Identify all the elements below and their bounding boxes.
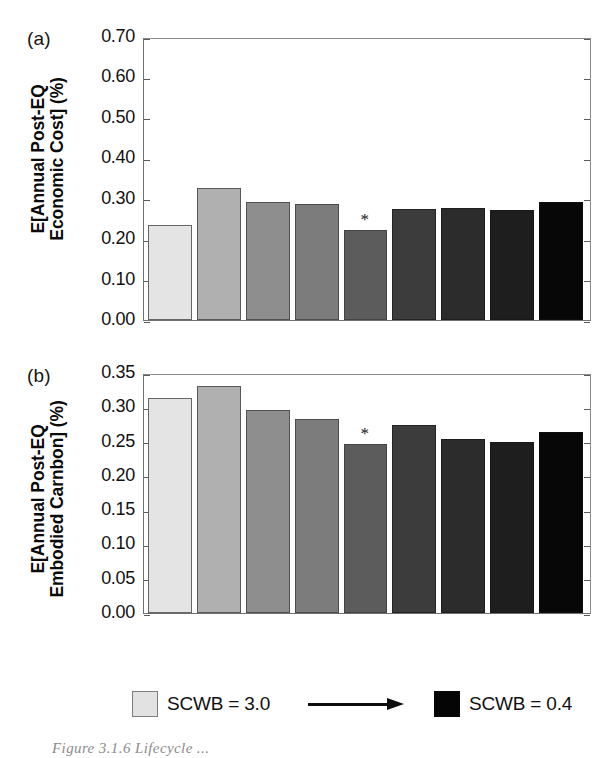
y-tick-label: 0.05 [101, 568, 135, 589]
bar [539, 432, 583, 613]
y-tick-label: 0.25 [101, 431, 135, 452]
panel-b-y-axis-title: E[Annual Post-EQ Embodied Carnbon] (%) [29, 384, 67, 614]
panel-b-y-axis-title-line2: Embodied Carnbon] (%) [48, 384, 67, 614]
bar [197, 386, 241, 613]
bar [392, 425, 436, 613]
y-tick-label: 0.15 [101, 499, 135, 520]
y-tick-label: 0.20 [101, 465, 135, 486]
bar [295, 419, 339, 613]
panel-b: (b) E[Annual Post-EQ Embodied Carnbon] (… [0, 0, 601, 640]
bar [490, 442, 534, 613]
y-tick-label: 0.00 [101, 602, 135, 623]
panel-b-plot-area: * [143, 374, 591, 614]
panel-b-y-axis-title-line1: E[Annual Post-EQ [29, 384, 48, 614]
bar [246, 410, 290, 613]
legend-label-right: SCWB = 0.4 [469, 693, 572, 715]
bar [344, 444, 388, 613]
rightwards-arrow-icon [308, 697, 404, 711]
legend-label-left: SCWB = 3.0 [167, 693, 270, 715]
bar [148, 398, 192, 613]
y-tick-label: 0.35 [101, 362, 135, 383]
significance-asterisk: * [361, 425, 370, 442]
tick-mark [144, 615, 150, 616]
figure-caption: Figure 3.1.6 Lifecycle ... [52, 740, 572, 758]
y-tick-label: 0.30 [101, 396, 135, 417]
tick-mark [584, 615, 590, 616]
panel-b-bars: * [144, 375, 590, 613]
legend-swatch-light [132, 691, 158, 717]
legend: SCWB = 3.0 SCWB = 0.4 [132, 691, 572, 717]
y-tick-label: 0.10 [101, 533, 135, 554]
figure-container: (a) E[Annual Post-EQ Economic Cost] (%) … [0, 0, 601, 758]
bar [441, 439, 485, 613]
legend-swatch-dark [434, 691, 460, 717]
